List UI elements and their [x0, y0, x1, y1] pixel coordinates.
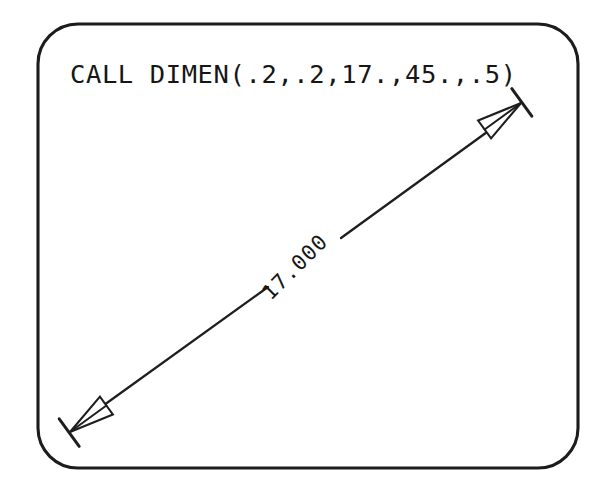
- call-statement-caption: CALL DIMEN(.2,.2,17.,45.,.5): [70, 59, 517, 89]
- dimension-value-label: 17.000: [257, 229, 333, 305]
- figure-page: CALL DIMEN(.2,.2,17.,45.,.5) 17.000: [0, 0, 616, 500]
- dimension-line-lower-segment: [86, 287, 268, 418]
- witness-tick-upper-right: [512, 89, 532, 117]
- dimension-figure: CALL DIMEN(.2,.2,17.,45.,.5) 17.000: [0, 0, 616, 500]
- arrow-terminator-lower-left: [59, 392, 116, 447]
- dimension-line-upper-segment: [341, 119, 505, 238]
